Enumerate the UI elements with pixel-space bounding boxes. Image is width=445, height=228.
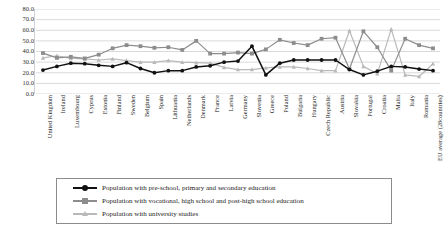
data-point: [208, 52, 212, 56]
y-axis-tick-label: 70.0: [22, 16, 34, 22]
x-axis-tick-label: Hungary: [310, 95, 317, 171]
x-axis-tick-label: Malta: [394, 95, 401, 171]
data-point: [83, 57, 87, 61]
data-point: [250, 52, 254, 56]
data-point: [41, 68, 45, 72]
x-axis-tick-label: Romania: [422, 95, 429, 171]
y-axis-tick-label: 60.0: [22, 27, 34, 33]
legend-label: Population with vocational, high school …: [102, 197, 304, 205]
legend-label: Population with university studies: [102, 210, 198, 218]
x-axis-tick-label: Netherlands: [185, 95, 192, 171]
y-axis-tick-label: 50.0: [22, 38, 34, 44]
data-point: [389, 64, 393, 68]
x-axis-tick-label: Croatia: [380, 95, 387, 171]
data-point: [55, 64, 59, 68]
data-point: [417, 67, 421, 71]
y-axis-tick-label: 30.0: [22, 59, 34, 65]
x-axis-tick-label: Czech Republic: [324, 95, 331, 171]
x-axis-tick-label: Estonia: [101, 95, 108, 171]
x-axis-tick-label: Germany: [241, 95, 248, 171]
x-axis-tick-label: Luxembourg: [73, 95, 80, 171]
x-axis-tick-label: Lithuania: [171, 95, 178, 171]
x-axis-tick-label: Denmark: [199, 95, 206, 171]
data-point: [97, 63, 101, 67]
x-axis-tick-label: Poland: [282, 95, 289, 171]
y-axis: 0.010.020.030.040.050.060.070.080.0: [0, 0, 36, 100]
x-axis-tick-label: Austria: [338, 95, 345, 171]
data-point: [97, 53, 101, 57]
data-point: [264, 73, 268, 77]
data-point: [139, 67, 143, 71]
data-point: [194, 39, 198, 43]
data-point: [292, 41, 296, 45]
x-axis-tick-label: France: [213, 95, 220, 171]
data-point: [334, 58, 338, 62]
plot-svg: [36, 9, 440, 94]
data-point: [264, 47, 268, 51]
x-axis-tick-label: Latvia: [227, 95, 234, 171]
legend-item-university: Population with university studies: [73, 208, 198, 220]
data-point: [403, 37, 407, 41]
x-axis-tick-label: EU average (28countries): [436, 95, 443, 171]
y-axis-tick-label: 80.0: [22, 6, 34, 12]
x-axis-tick-label: Finland: [115, 95, 122, 171]
data-point: [361, 64, 365, 68]
chart-container: 0.010.020.030.040.050.060.070.080.0 Unit…: [0, 0, 445, 228]
chart-legend: Population with pre-school, primary and …: [56, 178, 392, 224]
data-point: [375, 69, 379, 73]
x-axis-tick-label: Belgium: [143, 95, 150, 171]
data-point: [348, 68, 352, 72]
data-point: [417, 43, 421, 47]
y-axis-tick-label: 20.0: [22, 70, 34, 76]
data-point: [69, 61, 73, 65]
x-axis: United KingdomIrelandLuxembourgCyprusEst…: [36, 95, 440, 173]
data-point: [403, 65, 407, 69]
data-point: [153, 46, 157, 50]
y-axis-line: [34, 9, 35, 94]
data-point: [180, 69, 184, 73]
data-point: [292, 58, 296, 62]
x-axis-tick-label: Sweden: [129, 95, 136, 171]
data-point: [306, 43, 310, 47]
plot-area: [36, 9, 440, 94]
data-point: [83, 62, 87, 66]
x-axis-tick-label: Cyprus: [87, 95, 94, 171]
data-point: [278, 61, 282, 65]
data-point: [389, 69, 393, 73]
data-point: [111, 64, 115, 68]
data-point: [194, 65, 198, 69]
data-point: [389, 27, 393, 31]
x-axis-tick-label: Bulgaria: [296, 95, 303, 171]
data-point: [250, 44, 254, 48]
x-axis-tick-label: Portugal: [366, 95, 373, 171]
data-point: [320, 58, 324, 62]
x-axis-tick-label: Slovenia: [255, 95, 262, 171]
x-axis-tick-label: Slovakia: [352, 95, 359, 171]
legend-label: Population with pre-school, primary and …: [102, 184, 276, 192]
data-point: [125, 61, 129, 65]
legend-item-primary-secondary: Population with pre-school, primary and …: [73, 182, 276, 194]
legend-marker-triangle-icon: [73, 209, 97, 219]
data-point: [222, 52, 226, 56]
data-point: [320, 37, 324, 41]
data-point: [41, 51, 45, 55]
data-point: [361, 73, 365, 77]
x-axis-tick-label: Ireland: [59, 95, 66, 171]
x-axis-tick-label: United Kingdom: [46, 95, 53, 171]
data-point: [278, 38, 282, 42]
data-point: [208, 64, 212, 68]
data-point: [306, 58, 310, 62]
data-point: [431, 69, 435, 73]
data-point: [375, 45, 379, 49]
data-point: [125, 43, 129, 47]
x-axis-tick-label: Italy: [408, 95, 415, 171]
data-point: [222, 60, 226, 64]
data-point: [361, 29, 365, 33]
data-point: [139, 44, 143, 48]
legend-marker-circle-icon: [73, 183, 97, 193]
x-axis-tick-label: Greece: [268, 95, 275, 171]
data-point: [153, 71, 157, 75]
y-axis-tick-label: 0.0: [26, 91, 34, 97]
data-point: [236, 51, 240, 55]
data-point: [180, 48, 184, 52]
